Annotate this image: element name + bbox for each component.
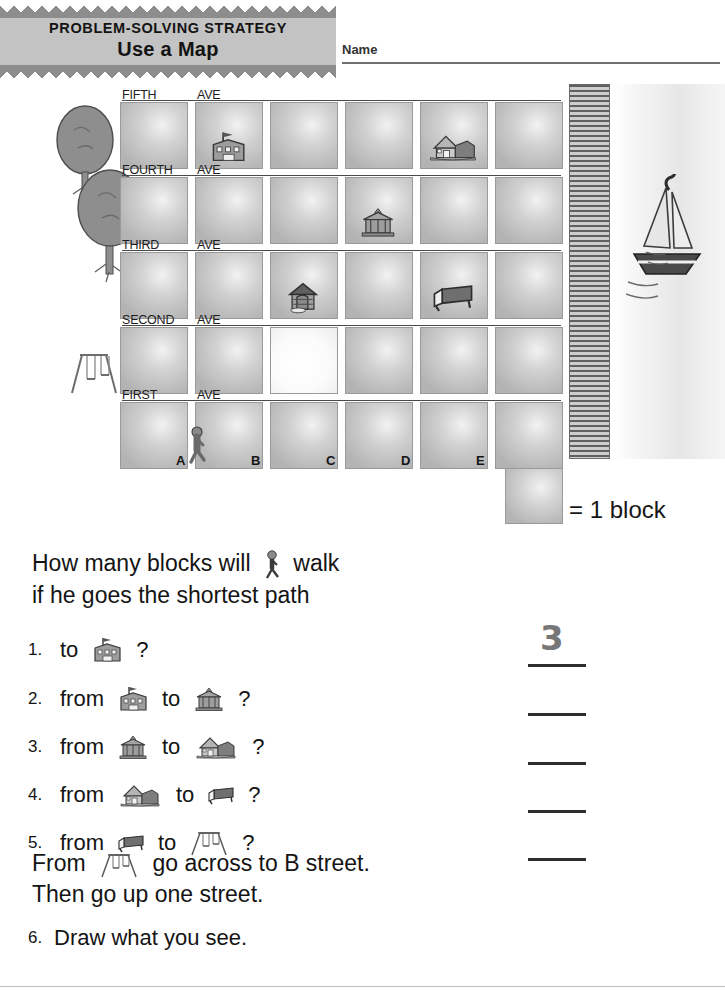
block-shading [421,328,487,393]
hut-icon [277,280,329,314]
question6-text: Draw what you see. [54,925,247,951]
closing-line1-after: go across to B street. [152,850,369,876]
map-block-E-fourth [420,177,488,244]
block-shading [496,328,562,393]
map-block-B-fourth [195,177,263,244]
map-block-D-fourth [345,177,413,244]
header-banner: PROBLEM-SOLVING STRATEGY Use a Map [0,6,336,78]
street-rule [122,325,561,326]
question-row: 3. from to ? [28,727,271,767]
question-mark: ? [136,637,148,663]
map-block-B-third [195,252,263,319]
map-block-A-second [120,327,188,394]
map-block-D-second [345,327,413,394]
map-block-F-third [495,252,563,319]
question-row: 4. from to ? [28,775,267,815]
answer-line-5[interactable] [528,858,586,861]
block-shading [196,253,262,318]
column-label-a: A [176,453,185,468]
strategy-label: PROBLEM-SOLVING STRATEGY [0,20,336,36]
name-input-line[interactable] [342,62,720,64]
dock-icon [569,84,610,459]
map-block-B-fifth [195,102,263,169]
school-icon [90,636,124,664]
legend: = 1 block [505,468,725,540]
street-rule [122,400,561,401]
question-number: 4. [28,785,54,805]
prompt-line1-before: How many blocks will [32,550,251,576]
question-mark: ? [248,782,260,808]
worksheet-page: PROBLEM-SOLVING STRATEGY Use a Map Name [0,0,725,996]
answer-line-1[interactable] [528,664,586,667]
library-icon [352,205,404,239]
question-number: 1. [28,640,54,660]
map-block-C-third [270,252,338,319]
block-shading [196,178,262,243]
block-shading [421,178,487,243]
map-block-F-fourth [495,177,563,244]
name-label: Name [342,42,377,57]
block-shading [496,103,562,168]
house-icon [194,733,238,761]
block-shading [346,328,412,393]
block-shading [121,328,187,393]
boy-walking-icon [127,430,179,464]
map-block-C-second [270,327,338,394]
map-block-F-fifth [495,102,563,169]
prompt-line2: if he goes the shortest path [32,582,309,608]
city-map: FIFTHAVEFOURTHAVETHIRDAVESECONDAVEFIRSTA… [0,84,725,469]
boy-walking-icon [261,550,283,580]
map-block-E-second [420,327,488,394]
page-bottom-divider [0,986,725,987]
answer-line-2[interactable] [528,713,586,716]
house-icon [427,130,479,164]
map-block-A-fifth [120,102,188,169]
block-shading [346,253,412,318]
column-label-d: D [401,453,410,468]
question-mark: ? [252,734,264,760]
column-label-c: C [326,453,335,468]
map-block-E-fifth [420,102,488,169]
block-shading [496,403,562,468]
page-title: Use a Map [0,38,336,61]
house-icon [118,781,162,809]
map-block-C-fifth [270,102,338,169]
answer-line-3[interactable] [528,762,586,765]
school-icon [202,130,254,164]
question-word: to [176,782,194,808]
answer-value-1[interactable]: 3 [540,618,564,658]
bench-icon [206,784,236,806]
zigzag-bottom-border [0,65,336,78]
block-shading [346,103,412,168]
question-word: from [60,686,104,712]
closing-instruction: From go across to B street. Then go up o… [32,848,502,910]
map-block-A-fourth [120,177,188,244]
map-block-F-second [495,327,563,394]
question-row: 2. from to ? [28,679,257,719]
question-row-6: 6. Draw what you see. [28,925,247,951]
block-shading [196,328,262,393]
sailboat-icon [626,174,708,306]
map-block-F-first [495,402,563,469]
school-icon [116,685,150,713]
boy-walking-icon [186,425,208,465]
legend-block-swatch [505,468,563,524]
map-block-A-third [120,252,188,319]
swing-set-icon [98,851,140,879]
question-number: 3. [28,737,54,757]
block-shading [121,178,187,243]
closing-line1-before: From [32,850,86,876]
bench-icon [427,280,479,314]
map-block-C-fourth [270,177,338,244]
question-word: from [60,734,104,760]
block-shading [121,103,187,168]
question-word: to [162,734,180,760]
answer-line-4[interactable] [528,810,586,813]
column-label-b: B [251,453,260,468]
question-number: 2. [28,689,54,709]
map-block-B-second [195,327,263,394]
question-row: 1. to ? [28,630,155,670]
question-number: 6. [28,928,54,948]
library-icon [194,685,224,713]
question-prompt: How many blocks will walk if he goes the… [32,548,472,611]
